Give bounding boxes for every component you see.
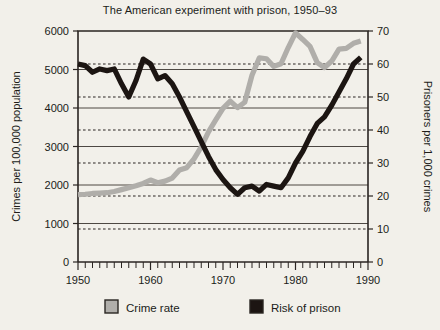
- y2-tick-label-40: 40: [377, 124, 389, 136]
- axis-tick-labels: 0100020003000400050006000010203040506070…: [45, 25, 390, 286]
- y2-tick-label-60: 60: [377, 58, 389, 70]
- x-tick-label-1990: 1990: [356, 274, 380, 286]
- chart-legend: Crime rateRisk of prison: [105, 300, 341, 314]
- x-tick-label-1950: 1950: [66, 274, 90, 286]
- y-tick-label-1000: 1000: [45, 218, 69, 230]
- y-tick-label-6000: 6000: [45, 25, 69, 37]
- y2-tick-label-20: 20: [377, 190, 389, 202]
- x-tick-label-1980: 1980: [283, 274, 307, 286]
- y-tick-label-3000: 3000: [45, 141, 69, 153]
- legend-swatch-crime-rate: [105, 300, 118, 313]
- y-tick-label-5000: 5000: [45, 64, 69, 76]
- y-tick-label-4000: 4000: [45, 102, 69, 114]
- y2-tick-label-50: 50: [377, 91, 389, 103]
- y2-tick-label-0: 0: [377, 256, 383, 268]
- chart-figure: The American experiment with prison, 195…: [0, 0, 440, 330]
- data-series: [78, 33, 361, 195]
- chart-canvas: 0100020003000400050006000010203040506070…: [0, 0, 440, 330]
- y2-tick-label-10: 10: [377, 223, 389, 235]
- legend-label-risk-of-prison: Risk of prison: [271, 302, 341, 314]
- y2-tick-label-70: 70: [377, 25, 389, 37]
- y-axis-title: Crimes per 100,000 population: [10, 71, 22, 221]
- y2-axis-title: Prisoners per 1,000 crimes: [422, 81, 434, 213]
- y-tick-label-0: 0: [63, 256, 69, 268]
- legend-swatch-risk-of-prison: [250, 300, 263, 313]
- series-line-risk-of-prison: [78, 57, 361, 194]
- chart-title: The American experiment with prison, 195…: [0, 4, 440, 16]
- y2-tick-label-30: 30: [377, 157, 389, 169]
- legend-label-crime-rate: Crime rate: [126, 302, 180, 314]
- x-tick-label-1970: 1970: [211, 274, 235, 286]
- x-tick-label-1960: 1960: [138, 274, 162, 286]
- y-tick-label-2000: 2000: [45, 179, 69, 191]
